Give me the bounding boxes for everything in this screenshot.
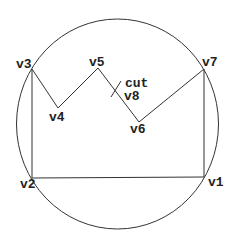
diagram-svg [0,0,234,245]
edge-v4-v5 [58,68,98,108]
vertex-label-v6: v6 [130,123,146,136]
vertex-label-v1: v1 [208,176,224,189]
vertex-label-v3: v3 [16,58,32,71]
bounding-circle [17,19,219,229]
edge-v3-v4 [32,69,58,108]
vertex-label-v2: v2 [20,178,36,191]
vertex-label-v4: v4 [49,111,65,124]
vertex-label-v5: v5 [89,56,105,69]
vertex-label-v8: v8 [124,90,140,103]
cut-mark [111,81,121,97]
edge-v1-v2 [32,177,204,178]
diagram-canvas: v1 v2 v3 v4 v5 v6 v7 cut v8 [0,0,234,245]
edge-v6-v7 [139,69,204,122]
vertex-label-v7: v7 [202,56,218,69]
